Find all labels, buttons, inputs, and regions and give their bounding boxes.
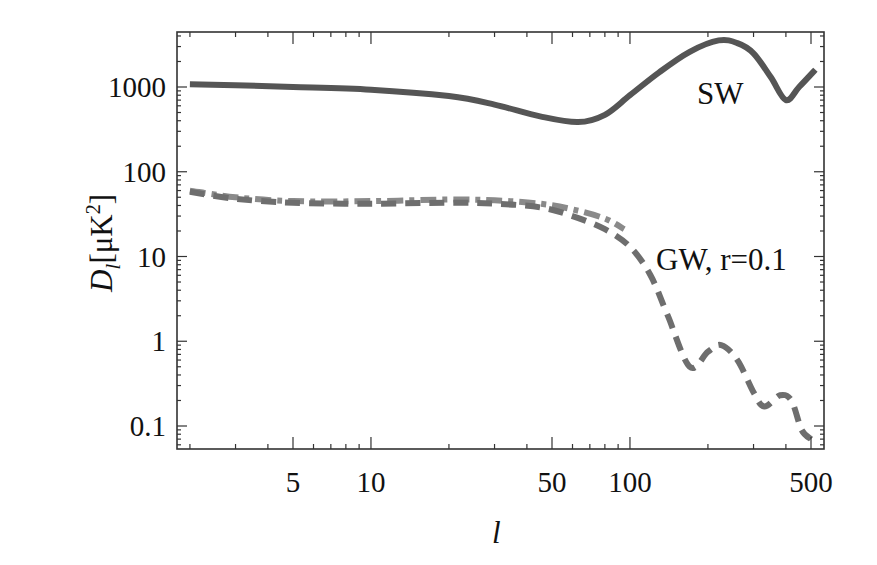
y-axis-label: Dl[μK2] (82, 194, 125, 293)
y-tick-label: 0.1 (130, 410, 166, 442)
x-tick-label: 500 (789, 466, 833, 498)
x-tick-label: 50 (538, 466, 567, 498)
ylabel-close: ] (84, 194, 119, 204)
chart: 510501005000.11101001000 SW GW, r=0.1 l … (0, 0, 877, 565)
y-tick-label: 1000 (108, 71, 166, 103)
svg-text:Dl[μK2]: Dl[μK2] (82, 194, 125, 293)
x-tick-label: 10 (356, 466, 385, 498)
series-gw-dashed (190, 192, 811, 439)
sw-label: SW (697, 76, 744, 111)
ylabel-open: [ (84, 253, 119, 263)
ylabel-sup: 2 (82, 204, 104, 214)
y-tick-label: 1 (152, 325, 167, 357)
ylabel-unit: μK (84, 214, 119, 254)
gw-label: GW, r=0.1 (656, 242, 787, 277)
x-axis-label: l (492, 515, 501, 550)
x-tick-label: 100 (608, 466, 652, 498)
x-tick-label: 5 (286, 466, 301, 498)
y-tick-label: 10 (137, 241, 166, 273)
y-tick-label: 100 (123, 156, 167, 188)
tick-labels: 510501005000.11101001000 (108, 71, 833, 498)
ylabel-main: D (84, 270, 119, 293)
